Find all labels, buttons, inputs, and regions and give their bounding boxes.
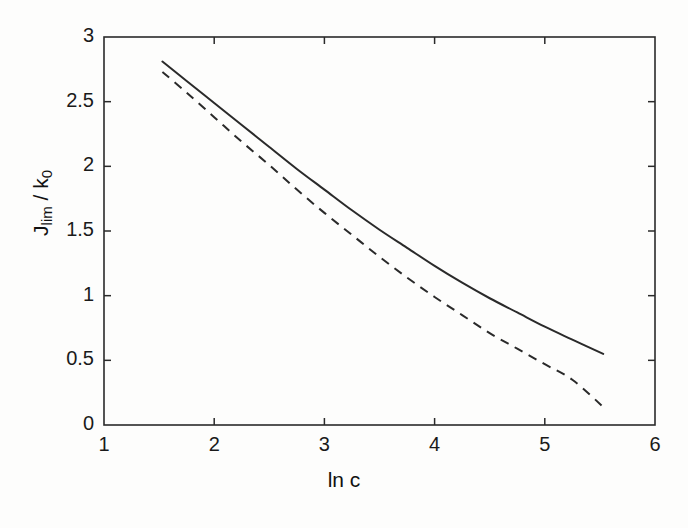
x-tick-label: 4 — [405, 433, 465, 456]
y-axis-title: Jlim / k0 — [29, 103, 55, 303]
y-tick-label: 0 — [26, 412, 94, 435]
x-axis-title: ln c — [0, 468, 688, 492]
x-tick-label: 3 — [294, 433, 354, 456]
plot-frame — [104, 37, 655, 425]
y-axis-title-sub-zero: 0 — [38, 170, 55, 178]
series-dashed-line — [162, 72, 603, 407]
y-axis-title-sub-lim: lim — [38, 206, 55, 225]
x-axis-ticks — [214, 37, 545, 425]
y-axis-title-divider: / k — [29, 178, 52, 206]
x-tick-label: 5 — [515, 433, 575, 456]
y-axis-ticks — [104, 102, 655, 361]
figure-container: 123456 00.511.522.53 ln c Jlim / k0 — [0, 0, 688, 528]
y-tick-label: 0.5 — [26, 347, 94, 370]
x-tick-label: 1 — [74, 433, 134, 456]
series-solid-line — [162, 62, 603, 354]
y-axis-title-main: J — [29, 225, 52, 236]
x-tick-label: 6 — [625, 433, 685, 456]
y-tick-label: 3 — [26, 24, 94, 47]
x-tick-label: 2 — [184, 433, 244, 456]
